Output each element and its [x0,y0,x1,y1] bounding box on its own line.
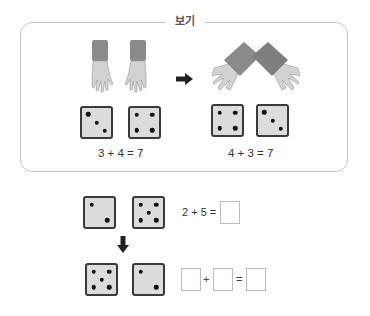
die-two [83,196,116,229]
down-arrow-icon [117,236,129,254]
die-five [85,263,118,296]
die-four [128,106,161,139]
first-addend-input[interactable] [181,268,201,291]
example-title: 보기 [165,13,205,29]
die-three [80,106,113,139]
bottom-sum-input[interactable] [246,268,266,291]
crossed-hands-illustration [210,38,302,94]
right-arrow-icon [176,73,194,85]
separate-hands-illustration [84,36,164,94]
die-five [132,196,165,229]
plus-sign: + [203,273,209,285]
second-addend-input[interactable] [213,268,233,291]
answer-sum-input[interactable] [220,201,240,224]
right-hand-icon [125,40,146,92]
die-four [211,104,244,137]
die-three [256,104,289,137]
right-equation: 4 + 3 = 7 [228,147,273,159]
left-equation: 3 + 4 = 7 [98,147,143,159]
left-hand-icon [92,40,113,92]
top-equation: 2 + 5 = [182,206,216,218]
die-two [132,263,165,296]
equals-sign: = [236,273,242,285]
